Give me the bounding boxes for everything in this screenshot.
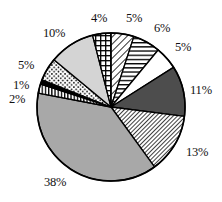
pie-slice-label: 11%: [190, 84, 212, 97]
pie-slice-label: 5%: [175, 41, 191, 54]
pie-slice-label: 2%: [9, 93, 25, 106]
pie-slice-label: 1%: [13, 79, 29, 92]
pie-slice-label: 4%: [91, 12, 107, 25]
pie-chart-canvas: [0, 0, 222, 202]
pie-slice-label: 5%: [126, 12, 142, 25]
pie-chart-figure: 4%5%6%5%11%13%38%2%1%5%10%: [0, 0, 222, 202]
pie-slice-label: 13%: [186, 146, 208, 159]
pie-slice-label: 38%: [44, 176, 66, 189]
pie-slice-label: 10%: [43, 27, 65, 40]
pie-slice-label: 6%: [154, 22, 170, 35]
pie-slice-label: 5%: [18, 59, 34, 72]
